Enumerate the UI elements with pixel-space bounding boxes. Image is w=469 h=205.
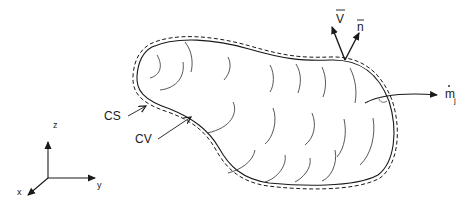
hatch-arcs [150, 42, 374, 182]
control-surface-label: CS [104, 109, 121, 123]
control-volume-boundary [137, 40, 394, 185]
velocity-label: V [336, 12, 344, 26]
control-surface-boundary [133, 37, 397, 189]
mass-flow-angle-arc [379, 99, 387, 102]
velocity-vector [332, 27, 345, 60]
control-volume-pointer [158, 117, 191, 139]
y-axis-label: y [97, 180, 102, 190]
control-surface-pointer [128, 106, 146, 116]
mass-flow-arrow [365, 94, 437, 103]
control-volume-diagram: m j V n CS CV z y x [0, 0, 469, 205]
x-axis [28, 178, 48, 195]
control-volume-label: CV [135, 132, 152, 146]
z-axis-label: z [53, 120, 58, 130]
mass-flow-dot [448, 85, 450, 87]
normal-vector [345, 33, 359, 60]
coordinate-axes: z y x [17, 120, 102, 197]
x-axis-label: x [17, 187, 22, 197]
normal-label: n [357, 20, 364, 34]
mass-flow-subscript: j [453, 96, 456, 105]
